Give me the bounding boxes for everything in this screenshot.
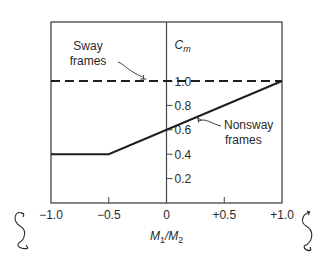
double-curvature-moment-symbol — [15, 213, 28, 249]
annotation-line: frames — [70, 54, 107, 68]
x-axis-label-sub2: 2 — [178, 235, 183, 245]
x-axis-label-m1: M — [150, 229, 160, 243]
x-axis-label: M1/M2 — [150, 229, 183, 245]
annotation-line: Sway — [73, 39, 102, 53]
x-tick-label: 0 — [163, 208, 170, 222]
y-tick-label: 0.8 — [175, 99, 192, 113]
single-curvature-moment-symbol — [303, 211, 312, 251]
sway-leader-line — [118, 62, 142, 77]
y-tick-label: 0.4 — [175, 148, 192, 162]
y-axis-label-base: C — [175, 38, 184, 52]
cm-chart: −1.0−0.50+0.5+1.0 0.20.40.60.81.0 Swayfr… — [0, 0, 334, 262]
sway-frames-annotation: Swayframes — [70, 39, 107, 68]
sway-leader-arrowhead — [140, 75, 146, 79]
y-axis-label: Cm — [175, 38, 192, 54]
y-tick-label: 0.2 — [175, 172, 192, 186]
x-axis-label-m2: M — [168, 229, 178, 243]
x-tick-label: −0.5 — [97, 208, 121, 222]
y-axis-label-sub: m — [183, 44, 191, 54]
y-ticks: 0.20.40.60.81.0 — [167, 75, 192, 187]
nonsway-leader-line — [199, 120, 221, 126]
x-tick-label: +1.0 — [270, 208, 294, 222]
annotations: SwayframesNonswayframes — [70, 39, 274, 147]
x-tick-label: −1.0 — [39, 208, 63, 222]
annotation-line: Nonsway — [224, 118, 273, 132]
nonsway-frames-annotation: Nonswayframes — [224, 118, 273, 147]
x-tick-label: +0.5 — [212, 208, 236, 222]
annotation-line: frames — [225, 133, 262, 147]
